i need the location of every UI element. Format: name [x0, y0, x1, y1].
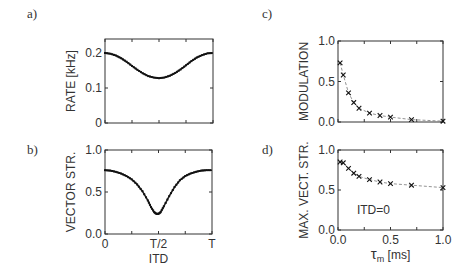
y-tick-label: 0.5 [318, 75, 335, 89]
plot-frame [338, 150, 443, 230]
x-tick-label: T [208, 237, 216, 251]
chart-panel-b: 0T/2T0.00.51.0VECTOR STR.ITD [64, 143, 216, 266]
y-tick-label: 0.0 [85, 227, 102, 241]
y-tick-label: 0.2 [85, 46, 102, 60]
x-axis-label: τm [ms] [371, 245, 410, 264]
y-tick-label: 0.5 [85, 185, 102, 199]
data-connector [340, 63, 443, 121]
y-axis-label: MODULATION [297, 42, 311, 121]
y-tick-label: 0.1 [85, 81, 102, 95]
data-line [105, 170, 212, 214]
chart-panel-c: 0.00.51.0MODULATION [297, 34, 445, 129]
x-tick-label: 0.5 [382, 233, 399, 247]
y-axis-label: MAX. VECT. STR. [297, 141, 311, 238]
x-marker [346, 91, 351, 96]
figure-canvas: 00.10.2RATE [kHz] 0T/2T0.00.51.0VECTOR S… [0, 0, 469, 272]
x-tick-label: 0 [102, 237, 109, 251]
y-tick-label: 0.5 [318, 183, 335, 197]
y-axis-label: VECTOR STR. [64, 152, 78, 232]
x-tick-label: 1.0 [435, 233, 452, 247]
x-marker [388, 181, 393, 186]
y-tick-label: 0.0 [318, 115, 335, 129]
y-tick-label: 1.0 [318, 143, 335, 157]
x-marker [357, 174, 362, 179]
plot-frame [105, 39, 213, 123]
x-marker [357, 106, 362, 111]
y-tick-label: 0.0 [318, 223, 335, 237]
x-marker [351, 171, 356, 176]
plot-frame [105, 150, 212, 234]
x-marker [351, 100, 356, 105]
y-tick-label: 1.0 [85, 143, 102, 157]
y-tick-label: 1.0 [318, 34, 335, 48]
chart-panel-a: 00.10.2RATE [kHz] [64, 39, 213, 130]
annotation-text: ITD=0 [357, 203, 390, 217]
x-tick-label: T/2 [150, 237, 168, 251]
chart-panel-d: 0.00.51.00.00.51.0MAX. VECT. STR.τm [ms]… [297, 141, 452, 264]
x-marker [346, 166, 351, 171]
plot-frame [338, 41, 443, 122]
y-axis-label: RATE [kHz] [64, 50, 78, 112]
x-axis-label: ITD [149, 252, 169, 266]
y-tick-label: 0 [95, 116, 102, 130]
